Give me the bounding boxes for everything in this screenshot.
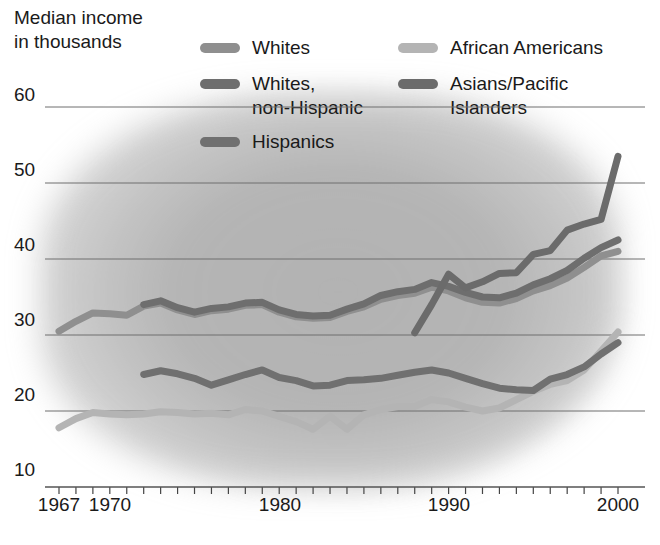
series-line-whites — [59, 251, 618, 331]
series-line-hispanics — [144, 343, 618, 391]
gridlines — [45, 107, 645, 411]
x-axis-ticks — [59, 487, 618, 494]
data-series-group — [59, 156, 618, 429]
